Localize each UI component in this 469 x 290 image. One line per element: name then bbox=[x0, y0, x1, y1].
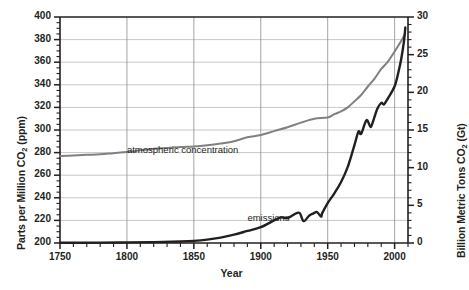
y-axis-right-tick-label: 25 bbox=[417, 48, 451, 59]
series-line-atmospheric-concentration bbox=[60, 33, 405, 156]
atmospheric-concentration-label: atmospheric concentration bbox=[127, 144, 238, 155]
emissions-label: emissions bbox=[247, 212, 289, 223]
y-axis-left-tick-label: 220 bbox=[17, 213, 51, 224]
x-axis-tick-label: 1850 bbox=[171, 251, 217, 262]
y-axis-right-tick-label: 30 bbox=[417, 10, 451, 21]
x-axis-tick-label: 1950 bbox=[305, 251, 351, 262]
x-axis-tick-label: 1750 bbox=[37, 251, 83, 262]
y-axis-left-tick-label: 320 bbox=[17, 100, 51, 111]
x-axis-tick-label: 2000 bbox=[372, 251, 418, 262]
y-axis-left-tick-label: 280 bbox=[17, 146, 51, 157]
y-axis-left-tick-label: 240 bbox=[17, 191, 51, 202]
y-axis-right-tick-label: 0 bbox=[417, 236, 451, 247]
y-axis-left-tick-label: 360 bbox=[17, 55, 51, 66]
y-axis-right-tick-label: 15 bbox=[417, 123, 451, 134]
series-line-emissions bbox=[60, 28, 405, 243]
x-axis-tick-label: 1800 bbox=[104, 251, 150, 262]
y-axis-left-tick-label: 200 bbox=[17, 236, 51, 247]
y-axis-left-tick-label: 380 bbox=[17, 33, 51, 44]
x-axis-tick-label: 1900 bbox=[238, 251, 284, 262]
y-axis-left-tick-label: 340 bbox=[17, 78, 51, 89]
y-axis-right-tick-label: 20 bbox=[417, 85, 451, 96]
y-axis-left-tick-label: 400 bbox=[17, 10, 51, 21]
y-axis-left-tick-label: 260 bbox=[17, 168, 51, 179]
y-axis-right-tick-label: 5 bbox=[417, 198, 451, 209]
y-axis-right-tick-label: 10 bbox=[417, 161, 451, 172]
y-axis-left-tick-label: 300 bbox=[17, 123, 51, 134]
